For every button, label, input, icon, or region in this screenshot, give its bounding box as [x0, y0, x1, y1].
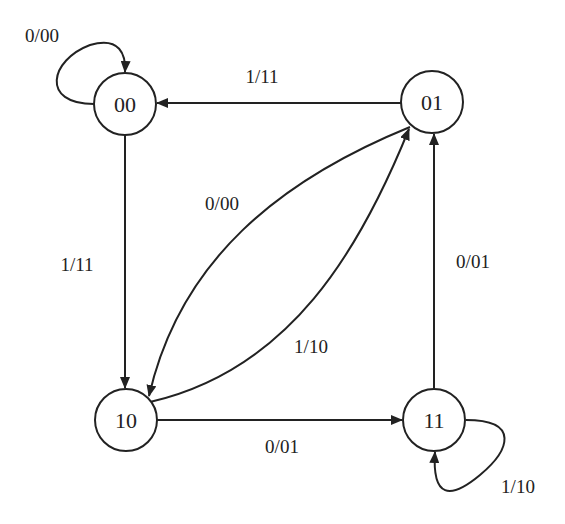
- edge-label-11-to-01: 0/01: [456, 251, 490, 272]
- state-node-01: 01: [401, 71, 463, 133]
- state-node-00: 00: [94, 73, 156, 135]
- edge-label-11-self: 1/10: [501, 476, 535, 497]
- edge-label-10-to-11: 0/01: [265, 436, 299, 457]
- state-label-10: 10: [115, 408, 137, 433]
- state-label-11: 11: [423, 408, 444, 433]
- state-label-00: 00: [114, 92, 136, 117]
- edge-01-to-10: [149, 127, 410, 396]
- edge-label-01-to-00: 1/11: [245, 66, 278, 87]
- edge-label-00-to-10: 1/11: [60, 254, 93, 275]
- state-diagram: 00 01 10 11 0/00 1/11 1/11 0/00 1/10 0/0…: [0, 0, 565, 524]
- edge-label-10-to-01: 1/10: [294, 336, 328, 357]
- edge-label-00-self: 0/00: [25, 25, 59, 46]
- state-label-01: 01: [421, 90, 443, 115]
- state-node-11: 11: [403, 389, 465, 451]
- state-node-10: 10: [95, 389, 157, 451]
- edge-label-01-to-10: 0/00: [205, 193, 239, 214]
- edge-10-to-01: [150, 129, 409, 402]
